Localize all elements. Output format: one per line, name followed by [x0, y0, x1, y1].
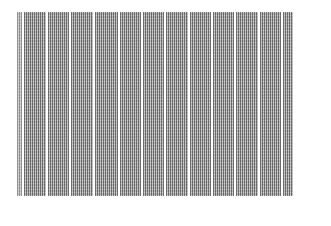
table-column [260, 12, 281, 196]
table-column [166, 12, 188, 196]
table-column [190, 12, 211, 196]
table-column [95, 12, 118, 196]
scanned-table [17, 12, 313, 196]
table-column [236, 12, 258, 196]
table-column [143, 12, 164, 196]
table-column [17, 12, 22, 196]
table-column [283, 12, 293, 196]
table-column [24, 12, 46, 196]
table-column [71, 12, 93, 196]
table-column [213, 12, 234, 196]
table-column [48, 12, 69, 196]
table-column [120, 12, 141, 196]
